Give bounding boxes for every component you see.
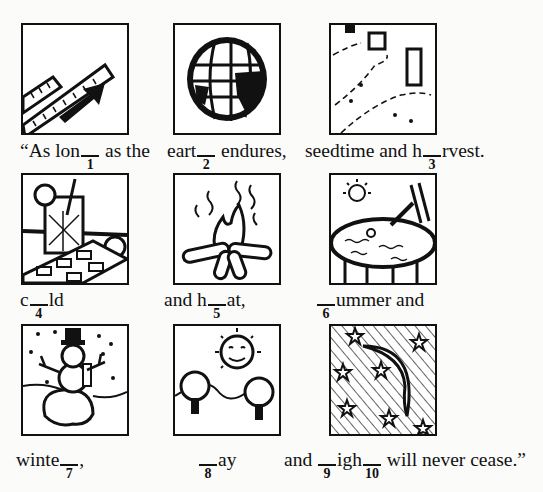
caption-text: “As lon	[20, 140, 80, 161]
caption-row-2-col-3: 6ummer and	[316, 290, 424, 310]
caption-row-1-col-3: seedtime and h3rvest.	[305, 141, 485, 161]
tile-day	[173, 324, 281, 436]
blank-1[interactable]: 1	[81, 141, 99, 157]
snowman-icon	[23, 326, 127, 434]
caption-row-1-col-2: eart2 endures,	[167, 141, 287, 161]
blank-6[interactable]: 6	[317, 290, 335, 306]
sunny-day-icon	[175, 326, 279, 434]
ruler-arrow-icon	[23, 25, 127, 133]
caption-row-2-col-2: and h5at,	[164, 290, 246, 310]
caption-row-3: winte7,	[16, 450, 84, 470]
caption-text: ummer and	[336, 289, 424, 310]
blank-9[interactable]: 9	[318, 450, 336, 466]
globe-icon	[175, 25, 279, 133]
caption-row-2: c4ld	[20, 290, 64, 310]
caption-text: will never cease.”	[382, 449, 526, 470]
blank-number: 8	[205, 467, 212, 481]
caption-text: at,	[227, 289, 246, 310]
tile-harvest	[329, 23, 437, 135]
caption-text: and	[284, 449, 317, 470]
caption-text: endures,	[216, 140, 286, 161]
caption-text: rvest.	[442, 140, 485, 161]
blank-number: 1	[87, 158, 94, 172]
blank-number: 10	[365, 467, 379, 481]
caption-text: seedtime and h	[305, 140, 422, 161]
caption-text: ay	[218, 449, 236, 470]
field-icon	[331, 25, 435, 133]
caption-text: eart	[167, 140, 196, 161]
campfire-icon	[175, 175, 279, 283]
caption-text: ld	[49, 289, 64, 310]
blank-number: 6	[323, 307, 330, 321]
blank-7[interactable]: 7	[60, 450, 78, 466]
caption-row-3-col-2: 8ay	[198, 450, 236, 470]
tile-ruler	[21, 23, 129, 135]
blank-number: 9	[324, 467, 331, 481]
tile-heat	[173, 173, 281, 285]
caption-text: and h	[164, 289, 207, 310]
caption-text: winte	[16, 449, 59, 470]
blank-10[interactable]: 10	[363, 450, 381, 466]
tile-night	[329, 324, 437, 436]
blank-number: 5	[213, 307, 220, 321]
blank-number: 4	[35, 307, 42, 321]
cold-drink-icon	[23, 175, 127, 283]
pool-icon	[331, 175, 435, 283]
caption-text: ,	[79, 449, 84, 470]
tile-earth	[173, 23, 281, 135]
caption-text: as the	[100, 140, 150, 161]
caption-text: c	[20, 289, 29, 310]
caption-row-3-col-3: and 9igh10 will never cease.”	[284, 450, 526, 470]
blank-number: 2	[203, 158, 210, 172]
caption-text: igh	[337, 449, 362, 470]
tile-winter	[21, 324, 129, 436]
blank-3[interactable]: 3	[423, 141, 441, 157]
blank-8[interactable]: 8	[199, 450, 217, 466]
tile-cold	[21, 173, 129, 285]
caption-row-1: “As lon1 as the	[20, 141, 150, 161]
tile-summer	[329, 173, 437, 285]
blank-5[interactable]: 5	[208, 290, 226, 306]
blank-number: 3	[428, 158, 435, 172]
blank-number: 7	[66, 467, 73, 481]
blank-4[interactable]: 4	[30, 290, 48, 306]
blank-2[interactable]: 2	[197, 141, 215, 157]
moon-stars-icon	[331, 326, 435, 434]
